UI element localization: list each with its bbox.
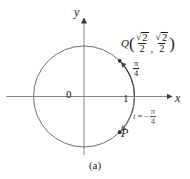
figure-canvas [0,0,190,179]
q-x-numerator: √ 2 [135,32,150,43]
equals-sign: = [138,112,143,121]
point-Q-dot [118,59,122,63]
q-x-denominator: 2 [138,43,145,54]
x-axis-label: x [175,92,180,104]
close-paren: ) [169,35,175,52]
t-variable: t [133,112,136,121]
point-Q-name: Q [121,38,129,49]
q-y-coordinate: √ 2 2 [154,32,169,55]
origin-label: 0 [66,89,72,100]
unit-circle-figure: y x 0 1 Q ( √ 2 2 , √ 2 2 [0,0,190,179]
minus-sign: − [144,112,149,121]
sqrt-icon: √ 2 [155,32,168,43]
figure-caption: (a) [0,159,190,171]
coordinate-comma: , [151,43,154,55]
pi-over-4-fraction: π 4 [133,59,139,77]
point-Q-label: Q ( √ 2 2 , √ 2 2 ) [121,32,175,55]
four-denominator: 4 [133,68,139,78]
sqrt-icon: √ 2 [136,32,149,43]
point-P-label: P [121,127,128,139]
y-axis-label: y [74,6,79,18]
q-x-coordinate: √ 2 2 [135,32,150,55]
four-denominator: 4 [150,116,156,126]
unit-tick-label: 1 [123,93,129,104]
arc-label-pi-over-4: π 4 [133,59,139,77]
negative-pi-over-4-fraction: π 4 [150,107,156,125]
arc-label-t-negative-pi-over-4: t = − π 4 [133,107,156,125]
q-y-denominator: 2 [158,43,165,54]
pi-numerator: π [150,107,156,116]
pi-numerator: π [133,59,139,68]
q-y-numerator: √ 2 [154,32,169,43]
